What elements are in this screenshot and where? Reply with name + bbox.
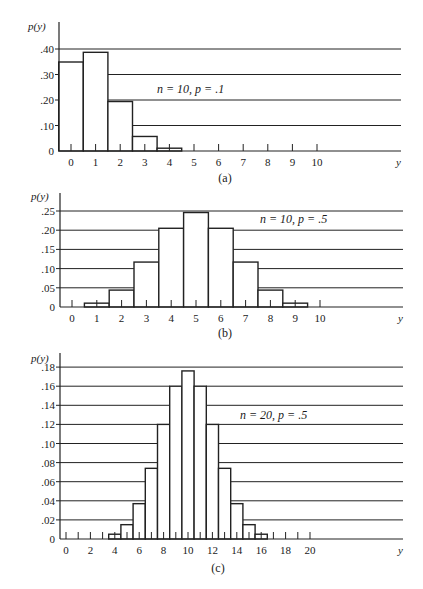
distribution-annotation: n = 10, p = .5 [260,212,327,226]
x-tick-label: 20 [305,544,317,556]
panel-caption: (b) [218,326,232,340]
y-tick-label: .40 [40,43,54,55]
histogram-bar [145,468,157,539]
histogram-bar [219,468,231,539]
y-tick-label: .14 [41,399,55,411]
x-axis-label: y [397,544,403,556]
y-tick-label: .25 [41,205,55,217]
y-axis-label: p(y) [30,190,49,203]
y-tick-label: .10 [41,263,55,275]
x-tick-label: 12 [207,544,218,556]
y-tick-label: .06 [41,476,55,488]
x-tick-label: 6 [216,156,222,168]
histogram-bar [83,52,108,151]
x-tick-label: 6 [136,544,142,556]
y-tick-label: 0 [49,145,55,157]
y-tick-label: .02 [41,514,55,526]
x-tick-label: 10 [312,156,324,168]
y-tick-label: 0 [50,533,56,545]
histogram-bar [158,424,170,539]
chart-panel-b: .05.10.15.20.250012345678910p(y)yn = 10,… [30,190,403,340]
histogram-bar [170,386,182,539]
histogram-bar [208,228,233,307]
x-tick-label: 5 [193,312,199,324]
x-tick-label: 1 [93,156,99,168]
x-tick-label: 7 [240,156,246,168]
x-tick-label: 4 [112,544,118,556]
x-tick-label: 5 [191,156,197,168]
y-axis-label: p(y) [27,20,46,33]
y-tick-label: .30 [40,69,54,81]
chart-panel-a: .10.20.30.400012345678910p(y)yn = 10, p … [27,20,401,185]
x-tick-label: 2 [117,156,123,168]
y-tick-label: .15 [41,243,55,255]
y-tick-label: .10 [40,120,54,132]
x-tick-label: 10 [183,544,195,556]
histogram-bar [194,386,206,539]
x-tick-label: 18 [280,544,292,556]
y-tick-label: .10 [41,438,55,450]
x-tick-label: 10 [315,312,327,324]
x-tick-label: 0 [63,544,69,556]
x-tick-label: 7 [243,312,249,324]
x-axis-label: y [395,156,401,168]
x-tick-label: 9 [290,156,296,168]
y-tick-label: .05 [41,282,55,294]
distribution-annotation: n = 10, p = .1 [157,82,224,96]
x-tick-label: 2 [88,544,94,556]
x-tick-label: 14 [231,544,243,556]
y-axis-label: p(y) [30,352,49,365]
x-tick-label: 9 [292,312,298,324]
histogram-bar [159,228,184,307]
y-tick-label: .08 [41,457,55,469]
distribution-annotation: n = 20, p = .5 [240,408,307,422]
x-tick-label: 16 [256,544,268,556]
y-tick-label: .04 [41,495,55,507]
x-tick-label: 2 [119,312,125,324]
histogram-bar [108,102,133,151]
x-tick-label: 0 [68,156,74,168]
panel-caption: (a) [218,171,231,185]
x-axis-label: y [397,312,403,324]
x-tick-label: 8 [268,312,274,324]
histogram-bar [206,424,218,539]
y-tick-label: .20 [40,94,54,106]
y-tick-label: .20 [41,224,55,236]
chart-panel-c: .02.04.06.08.10.12.14.16.180024681012141… [30,352,403,575]
x-tick-label: 8 [265,156,271,168]
x-tick-label: 3 [142,156,148,168]
histogram-bar [184,213,209,307]
x-tick-label: 8 [161,544,167,556]
histogram-bar [182,371,194,539]
y-tick-label: .12 [41,418,55,430]
x-tick-label: 6 [218,312,224,324]
x-tick-label: 0 [69,312,75,324]
x-tick-label: 4 [168,312,174,324]
histogram-bar [59,62,84,151]
y-tick-label: .16 [41,380,55,392]
x-tick-label: 3 [144,312,150,324]
x-tick-label: 1 [94,312,100,324]
x-tick-label: 4 [167,156,173,168]
panel-caption: (c) [211,561,224,575]
y-tick-label: 0 [50,301,56,313]
binomial-figure: .10.20.30.400012345678910p(y)yn = 10, p … [0,0,423,589]
